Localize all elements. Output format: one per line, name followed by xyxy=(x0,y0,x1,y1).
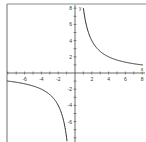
y-tick-label: 8 xyxy=(69,5,72,11)
y-tick-label: 6 xyxy=(69,21,72,27)
x-tick-label: 4 xyxy=(107,76,110,82)
curve-negative-branch xyxy=(7,81,67,141)
y-tick-label: 2 xyxy=(69,54,72,60)
y-tick-label: -2 xyxy=(68,86,73,92)
x-tick-label: 8 xyxy=(141,76,144,82)
x-tick-label: 2 xyxy=(90,76,93,82)
x-tick-label: -2 xyxy=(56,76,61,82)
x-tick-label: -4 xyxy=(39,76,44,82)
x-tick-label: 6 xyxy=(124,76,127,82)
y-tick-label: 4 xyxy=(69,38,72,44)
curve-positive-branch xyxy=(83,8,143,65)
x-axis-label: x xyxy=(141,66,144,72)
x-tick-label: -6 xyxy=(22,76,27,82)
y-axis-label: y xyxy=(79,5,82,11)
hyperbola-chart: -6-4-224688642-2-4-6xy xyxy=(0,0,146,142)
axes: -6-4-224688642-2-4-6xy xyxy=(7,5,145,142)
y-tick-label: -4 xyxy=(68,102,73,108)
y-tick-label: -6 xyxy=(68,119,73,125)
